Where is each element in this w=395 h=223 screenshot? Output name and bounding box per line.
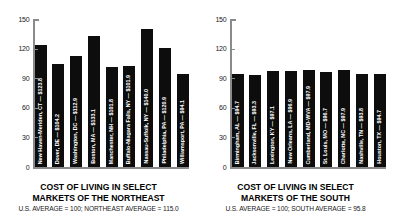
chart-subtitle-south: U.S. AVERAGE = 100; SOUTH AVERAGE = 95.8 (201, 204, 391, 213)
chart-subtitle-northeast: U.S. AVERAGE = 100; NORTHEAST AVERAGE = … (4, 204, 194, 213)
bar-label: Houston, TX — $94.7 (376, 110, 383, 164)
x-axis-line-south (230, 167, 386, 169)
bar: St. Louis, MO — $96.7 (320, 72, 332, 167)
chart-page: New Haven-Meriden, CT — $123.8Dover, DE … (0, 0, 395, 223)
bar-label: Charlotte, NC — $97.9 (340, 108, 347, 164)
y-tick-mark (33, 167, 38, 168)
chart-panel-northeast: New Haven-Meriden, CT — $123.8Dover, DE … (0, 0, 197, 223)
bar: Birmingham, AL — $94.7 (232, 74, 244, 167)
y-tick-mark (230, 137, 235, 138)
chart-title-line1-south: COST OF LIVING IN SELECT (201, 182, 391, 193)
y-tick-label: 120 (5, 45, 30, 52)
y-tick-label: 0 (202, 164, 227, 171)
y-tick-mark (33, 78, 38, 79)
bar: Cumberland, MD-WVA — $97.9 (303, 70, 315, 167)
chart-title-line2-northeast: MARKETS OF THE NORTHEAST (4, 193, 194, 204)
bar: New Orleans, LA — $96.9 (285, 71, 297, 167)
bar-label: Nashville, TN — $93.8 (358, 108, 365, 164)
y-tick-label: 120 (202, 45, 227, 52)
bar-label: Boston, MA — $133.1 (90, 109, 97, 164)
bar: Nassau-Suffolk, NY — $140.0 (141, 29, 153, 167)
bar: Philadelphia, PA — $120.9 (159, 48, 171, 167)
bar-label: Jacksonville, FL — $93.3 (251, 101, 258, 164)
x-axis-line-northeast (33, 167, 189, 169)
y-tick-label: 0 (5, 164, 30, 171)
y-tick-mark (230, 49, 235, 50)
bar: Houston, TX — $94.7 (374, 74, 386, 167)
bar: Nashville, TN — $93.8 (356, 74, 368, 167)
bar-label: Manchester, NH — $101.8 (108, 99, 115, 164)
y-tick-label: 150 (5, 16, 30, 23)
chart-title-line2-south: MARKETS OF THE SOUTH (201, 193, 391, 204)
chart-panel-south: Birmingham, AL — $94.7Jacksonville, FL —… (197, 0, 394, 223)
bar-label: St. Louis, MO — $96.7 (322, 108, 329, 164)
y-tick-label: 30 (5, 134, 30, 141)
caption-northeast: COST OF LIVING IN SELECT MARKETS OF THE … (4, 182, 194, 213)
y-tick-mark (33, 49, 38, 50)
bar-label: Birmingham, AL — $94.7 (234, 101, 241, 164)
bar: Jacksonville, FL — $93.3 (249, 75, 261, 167)
bar-label: Nassau-Suffolk, NY — $140.0 (143, 89, 150, 164)
bar: Manchester, NH — $101.8 (106, 67, 118, 167)
y-tick-mark (230, 108, 235, 109)
bar-group-northeast: New Haven-Meriden, CT — $123.8Dover, DE … (35, 19, 189, 167)
y-tick-mark (230, 78, 235, 79)
y-tick-mark (33, 137, 38, 138)
bar: Washington, DC — $112.9 (70, 56, 82, 167)
y-tick-label: 150 (202, 16, 227, 23)
y-tick-label: 90 (5, 75, 30, 82)
bar: Williamsport, PA — $94.1 (177, 74, 189, 167)
y-tick-mark (33, 108, 38, 109)
bar-label: Williamsport, PA — $94.1 (179, 100, 186, 164)
caption-south: COST OF LIVING IN SELECT MARKETS OF THE … (201, 182, 391, 213)
bar: Buffalo-Niagara Falls, NY — $101.9 (123, 66, 135, 167)
bar-label: Cumberland, MD-WVA — $97.9 (305, 86, 312, 164)
bar-label: New Haven-Meriden, CT — $123.8 (37, 78, 44, 164)
bar-label: Lexington, KY — $97.1 (269, 106, 276, 164)
y-tick-label: 60 (202, 104, 227, 111)
bar-label: Philadelphia, PA — $120.9 (161, 97, 168, 164)
y-tick-mark (230, 19, 235, 20)
y-tick-mark (230, 167, 235, 168)
bar: Dover, DE — $104.2 (52, 64, 64, 167)
bar: New Haven-Meriden, CT — $123.8 (35, 45, 47, 167)
bar: Charlotte, NC — $97.9 (338, 70, 350, 167)
bar-label: New Orleans, LA — $96.9 (287, 99, 294, 164)
bar-label: Buffalo-Niagara Falls, NY — $101.9 (125, 75, 132, 164)
bar-label: Washington, DC — $112.9 (72, 98, 79, 164)
y-tick-label: 60 (5, 104, 30, 111)
y-tick-label: 30 (202, 134, 227, 141)
y-tick-mark (33, 19, 38, 20)
y-tick-label: 90 (202, 75, 227, 82)
plot-area-south: Birmingham, AL — $94.7Jacksonville, FL —… (202, 9, 390, 181)
bar: Boston, MA — $133.1 (88, 36, 100, 167)
bar-label: Dover, DE — $104.2 (54, 114, 61, 164)
bar-group-south: Birmingham, AL — $94.7Jacksonville, FL —… (232, 19, 386, 167)
chart-title-line1-northeast: COST OF LIVING IN SELECT (4, 182, 194, 193)
bar: Lexington, KY — $97.1 (267, 71, 279, 167)
plot-area-northeast: New Haven-Meriden, CT — $123.8Dover, DE … (5, 9, 193, 181)
